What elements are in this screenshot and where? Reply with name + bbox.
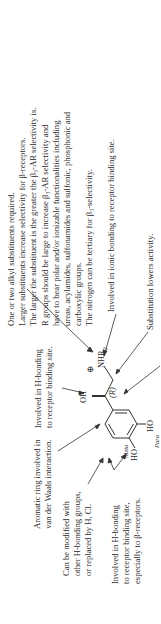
nhr-text: NHR <box>97 350 106 368</box>
note-line: Can be modified with <box>61 491 72 576</box>
note-line: especially to β-receptors. <box>132 498 143 584</box>
meta-modification-note: Can be modified with other H-bonding gro… <box>61 491 95 576</box>
note-line: The larger the substituent is the greate… <box>28 108 39 326</box>
note-line: van der Waals interaction. <box>43 439 54 529</box>
note-line: have to bear polar and/or ionizable func… <box>51 108 62 326</box>
meta-position-label: Meta <box>122 445 129 458</box>
note-line: Involved in ionic bonding to receptor bi… <box>106 139 117 312</box>
nhr-subscript: 2 <box>101 347 108 350</box>
note-line: or replaced by H, Cl. <box>83 491 94 576</box>
note-line: carboxylic groups. <box>73 108 84 326</box>
nhr2-label: NHR2 <box>97 347 108 368</box>
meta-ho-label: HO <box>130 449 139 461</box>
note-line: Substitution lowers activity. <box>145 234 156 330</box>
note-line: The nitrogen can be tertiary for β₃-sele… <box>84 108 95 326</box>
ionic-bonding-note: Involved in ionic bonding to receptor bi… <box>106 139 117 312</box>
stereo-r-label: (R) <box>108 387 117 398</box>
note-line: Larger substituents increase selectivity… <box>17 108 28 326</box>
rotated-figure: OH NHR2 ⊕ (R) HO Meta HO Para One or two… <box>0 0 161 624</box>
phenol-hbond-note: Involved in H-bonding to receptor bindin… <box>110 498 144 584</box>
positive-charge-icon: ⊕ <box>85 365 95 373</box>
benzene-ring <box>105 410 137 438</box>
note-line: ureas, acylamides, sulfonamides and sulf… <box>62 108 73 326</box>
note-line: One or two alkyl substituents required. <box>6 108 17 326</box>
para-position-label: Para <box>153 435 160 448</box>
oh-label: OH <box>79 391 88 403</box>
amine-substituent-notes: One or two alkyl substituents required. … <box>6 108 96 326</box>
note-line: R groups should be large to increase β₃-… <box>40 108 51 326</box>
note-line: Aromatic ring involved in <box>32 439 43 529</box>
note-line: Involved in H-bonding <box>33 346 44 428</box>
note-line: to receptor binding site. <box>44 346 55 428</box>
note-line: to receptor binding site, <box>121 498 132 584</box>
hydroxyl-hbond-note: Involved in H-bonding to receptor bindin… <box>33 346 55 428</box>
note-line: other H-bonding groups, <box>72 491 83 576</box>
substitution-note: Substitution lowers activity. <box>145 234 156 330</box>
note-line: Involved in H-bonding <box>110 498 121 584</box>
aromatic-ring-note: Aromatic ring involved in van der Waals … <box>32 439 54 529</box>
para-ho-label: HO <box>146 420 155 432</box>
